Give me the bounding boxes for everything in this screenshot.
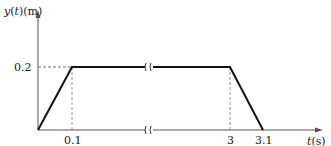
data-line-fall <box>153 67 263 130</box>
trapezoid-chart: y(t)(m) 0.2 0.1 3 3.1 t(s) <box>0 0 331 146</box>
axis-break-icon-top <box>145 63 151 71</box>
y-tick-label-0.2: 0.2 <box>14 61 32 74</box>
x-tick-label-3: 3 <box>227 134 234 146</box>
x-tick-label-3.1: 3.1 <box>255 134 273 146</box>
y-axis-label: y(t)(m) <box>3 5 42 18</box>
x-axis-label: t(s) <box>307 135 326 146</box>
x-tick-label-0.1: 0.1 <box>64 134 82 146</box>
data-line-rise <box>38 67 145 130</box>
x-axis-arrow-icon <box>315 128 323 133</box>
